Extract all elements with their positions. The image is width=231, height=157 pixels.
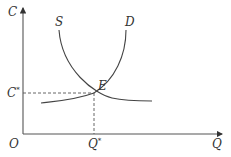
curve-s-label: S bbox=[55, 15, 63, 29]
curve-d bbox=[41, 30, 126, 103]
equilibrium-point-label: E bbox=[97, 79, 107, 93]
x-axis-label: Q bbox=[212, 137, 222, 151]
equilibrium-c-label: C* bbox=[7, 86, 20, 100]
origin-label: O bbox=[9, 137, 19, 151]
curve-d-label: D bbox=[124, 15, 135, 29]
y-axis-label: C bbox=[8, 5, 17, 19]
equilibrium-diagram: C Q O S D E C* Q* bbox=[0, 0, 231, 157]
equilibrium-q-label: Q* bbox=[88, 137, 102, 151]
